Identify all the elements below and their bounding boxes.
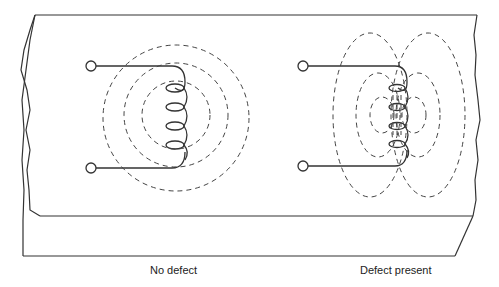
coil-no-defect xyxy=(86,61,187,173)
caption-defect-present: Defect present xyxy=(360,264,432,276)
terminal-bottom xyxy=(298,161,308,171)
terminal-top xyxy=(86,61,96,71)
diagram-canvas xyxy=(0,0,499,287)
terminal-top xyxy=(298,61,308,71)
terminal-bottom xyxy=(86,163,96,173)
field-lines-defect xyxy=(333,33,465,197)
caption-no-defect: No defect xyxy=(150,264,197,276)
plate xyxy=(21,15,480,256)
coil-defect xyxy=(298,61,409,171)
